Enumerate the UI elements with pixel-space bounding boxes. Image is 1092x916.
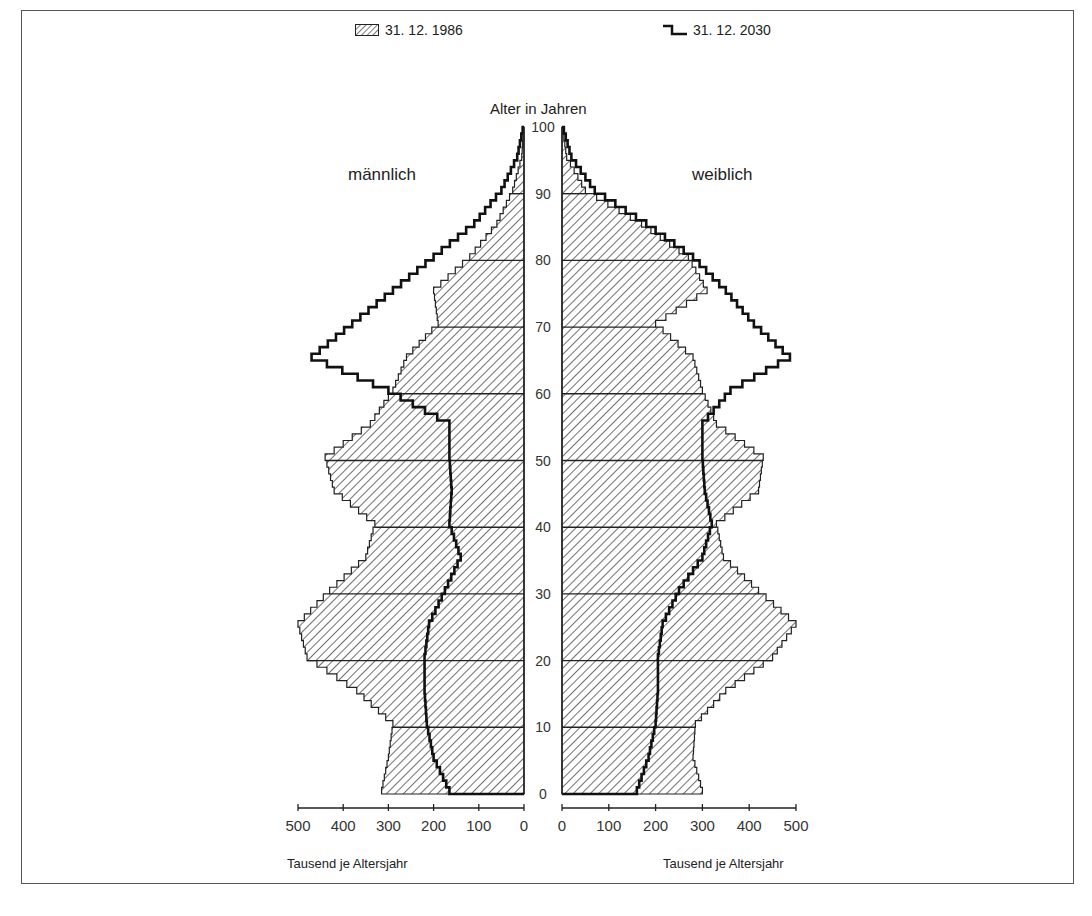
y-tick-label: 50 bbox=[535, 453, 551, 469]
x-tick-label: 100 bbox=[596, 817, 621, 834]
y-tick-label: 80 bbox=[535, 252, 551, 268]
y-tick-label: 40 bbox=[535, 519, 551, 535]
x-tick-label: 400 bbox=[737, 817, 762, 834]
y-tick-label: 70 bbox=[535, 319, 551, 335]
x-tick-label: 100 bbox=[466, 817, 491, 834]
x-tick-label: 200 bbox=[643, 817, 668, 834]
population-pyramid: 0102030405060708090100500400300200100001… bbox=[0, 0, 1092, 916]
x-tick-label: 500 bbox=[783, 817, 808, 834]
x-tick-label: 400 bbox=[331, 817, 356, 834]
y-tick-label: 20 bbox=[535, 653, 551, 669]
y-tick-label: 0 bbox=[539, 786, 547, 802]
y-tick-label: 60 bbox=[535, 386, 551, 402]
y-tick-label: 30 bbox=[535, 586, 551, 602]
y-tick-label: 90 bbox=[535, 186, 551, 202]
x-tick-label: 300 bbox=[376, 817, 401, 834]
x-tick-label: 300 bbox=[690, 817, 715, 834]
x-tick-label: 200 bbox=[421, 817, 446, 834]
y-tick-label: 100 bbox=[531, 119, 555, 135]
x-tick-label: 500 bbox=[285, 817, 310, 834]
y-tick-label: 10 bbox=[535, 719, 551, 735]
x-tick-label: 0 bbox=[520, 817, 528, 834]
x-tick-label: 0 bbox=[558, 817, 566, 834]
